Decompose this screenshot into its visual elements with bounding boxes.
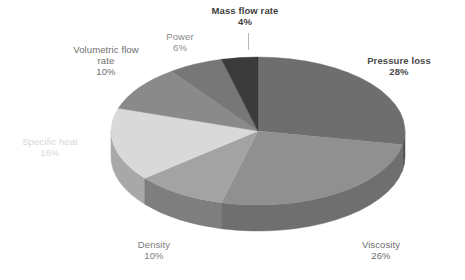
mass-flow-rate-leader-line <box>248 33 249 50</box>
slice-label-percent: 4% <box>185 16 305 27</box>
slice-label-pressure-loss: Pressure loss 28% <box>344 55 454 77</box>
slice-label-name: Specific heat <box>2 136 98 147</box>
slice-label-name-line2: rate <box>52 55 160 66</box>
pie-top-slices <box>111 57 405 205</box>
pie-chart: Mass flow rate 4% Power 6% Volumetric fl… <box>0 0 465 280</box>
slice-label-name: Power <box>140 31 220 42</box>
slice-label-name: Pressure loss <box>344 55 454 66</box>
slice-label-name: Density <box>108 239 200 250</box>
slice-label-percent: 26% <box>333 250 429 261</box>
slice-label-percent: 16% <box>2 147 98 158</box>
slice-label-viscosity: Viscosity 26% <box>333 239 429 261</box>
slice-label-percent: 10% <box>52 66 160 77</box>
slice-label-name: Viscosity <box>333 239 429 250</box>
slice-label-percent: 10% <box>108 250 200 261</box>
slice-label-density: Density 10% <box>108 239 200 261</box>
slice-label-name-line1: Volumetric flow <box>52 44 160 55</box>
slice-label-percent: 28% <box>344 66 454 77</box>
slice-label-mass-flow-rate: Mass flow rate 4% <box>185 5 305 27</box>
slice-label-volumetric-flow-rate: Volumetric flow rate 10% <box>52 44 160 78</box>
slice-label-specific-heat: Specific heat 16% <box>2 136 98 158</box>
slice-label-name: Mass flow rate <box>185 5 305 16</box>
